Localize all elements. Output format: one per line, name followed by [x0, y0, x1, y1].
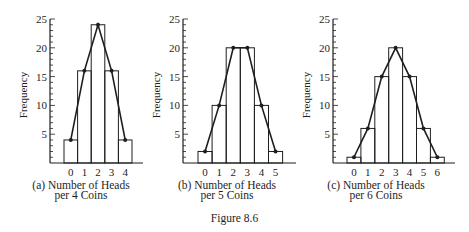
- caption-c-line2: per 6 Coins: [296, 191, 456, 201]
- data-point-marker: [203, 149, 207, 153]
- data-point-marker: [110, 69, 114, 73]
- histogram-bar: [254, 105, 268, 163]
- caption-a-line2: per 4 Coins: [1, 191, 161, 201]
- data-point-marker: [274, 149, 278, 153]
- x-tick-label: 1: [216, 166, 222, 178]
- x-tick-label: 3: [245, 166, 251, 178]
- y-tick-label: 15: [319, 71, 331, 83]
- x-tick-label: 2: [231, 166, 237, 178]
- frequency-polygon: [354, 48, 437, 157]
- histogram-bar: [105, 71, 119, 163]
- histogram-bar: [375, 77, 389, 163]
- caption-c: (c) Number of Heads per 6 Coins: [296, 181, 456, 200]
- y-axis-label: Frequency: [150, 71, 162, 118]
- histogram-bar: [361, 128, 375, 163]
- y-tick-label: 25: [169, 13, 181, 25]
- caption-b-line2: per 5 Coins: [147, 191, 307, 201]
- x-tick-label: 0: [202, 166, 208, 178]
- x-tick-label: 0: [351, 166, 357, 178]
- y-tick-label: 10: [319, 99, 331, 111]
- y-tick-label: 10: [169, 99, 181, 111]
- y-tick-label: 15: [36, 71, 48, 83]
- y-axis-label: Frequency: [17, 71, 29, 118]
- x-tick-label: 1: [365, 166, 371, 178]
- x-tick-label: 6: [435, 166, 441, 178]
- y-tick-label: 20: [319, 42, 331, 54]
- y-axis-label: Frequency: [300, 71, 312, 118]
- x-tick-label: 4: [259, 166, 265, 178]
- y-tick-label: 5: [175, 128, 181, 140]
- x-tick-label: 2: [95, 166, 101, 178]
- y-tick-label: 25: [36, 13, 48, 25]
- y-tick-label: 5: [42, 128, 48, 140]
- data-point-marker: [69, 138, 73, 142]
- histogram-bar: [64, 140, 78, 163]
- data-point-marker: [435, 155, 439, 159]
- y-tick-label: 20: [36, 42, 48, 54]
- y-tick-label: 20: [169, 42, 181, 54]
- histogram-bar: [212, 105, 226, 163]
- x-tick-label: 1: [82, 166, 88, 178]
- histogram-bar: [78, 71, 92, 163]
- data-point-marker: [380, 75, 384, 79]
- x-tick-label: 5: [421, 166, 427, 178]
- y-tick-label: 25: [319, 13, 331, 25]
- histogram-bar: [417, 128, 431, 163]
- data-point-marker: [123, 138, 127, 142]
- histogram-bar: [403, 77, 417, 163]
- data-point-marker: [394, 46, 398, 50]
- histogram-bar: [118, 140, 132, 163]
- data-point-marker: [82, 69, 86, 73]
- data-point-marker: [231, 46, 235, 50]
- x-tick-label: 4: [407, 166, 413, 178]
- y-tick-label: 15: [169, 71, 181, 83]
- chart-a: 510152025Frequency01234: [17, 13, 143, 178]
- chart-b: 510152025Frequency012345: [150, 13, 296, 178]
- data-point-marker: [421, 126, 425, 130]
- caption-b: (b) Number of Heads per 5 Coins: [147, 181, 307, 200]
- histogram-bar: [91, 25, 105, 163]
- figure-label: Figure 8.6: [0, 212, 469, 224]
- data-point-marker: [96, 23, 100, 27]
- histogram-bar: [389, 48, 403, 163]
- data-point-marker: [366, 126, 370, 130]
- frequency-polygon: [71, 25, 125, 140]
- caption-a: (a) Number of Heads per 4 Coins: [1, 181, 161, 200]
- x-tick-label: 3: [393, 166, 399, 178]
- data-point-marker: [217, 103, 221, 107]
- x-tick-label: 5: [273, 166, 279, 178]
- data-point-marker: [408, 75, 412, 79]
- data-point-marker: [352, 155, 356, 159]
- y-tick-label: 5: [325, 128, 331, 140]
- data-point-marker: [245, 46, 249, 50]
- y-tick-label: 10: [36, 99, 48, 111]
- x-tick-label: 2: [379, 166, 385, 178]
- data-point-marker: [259, 103, 263, 107]
- x-tick-label: 4: [122, 166, 128, 178]
- x-tick-label: 0: [68, 166, 74, 178]
- x-tick-label: 3: [109, 166, 115, 178]
- chart-c: 510152025Frequency0123456: [300, 13, 455, 178]
